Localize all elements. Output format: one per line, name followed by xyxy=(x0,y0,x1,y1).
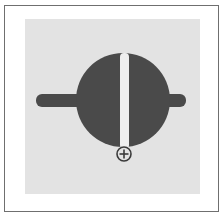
indicator-slot-bar xyxy=(120,53,129,149)
screenshot-root xyxy=(0,0,224,218)
crosshair-target-icon xyxy=(117,147,131,161)
valve-symbol-graphic xyxy=(25,19,200,194)
